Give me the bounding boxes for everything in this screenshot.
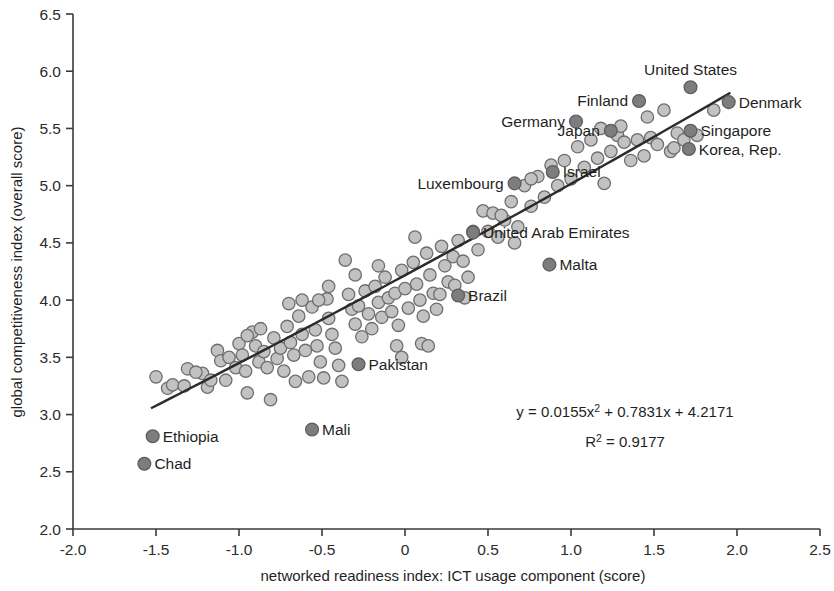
- x-tick-label: 0.5: [477, 541, 499, 558]
- highlighted-data-point: [604, 124, 617, 137]
- x-tick-label: -1.5: [143, 541, 170, 558]
- data-point: [254, 323, 266, 335]
- data-point: [420, 247, 432, 259]
- y-tick-label: 4.5: [39, 234, 61, 251]
- y-tick-label: 3.0: [39, 406, 61, 423]
- y-tick-label: 2.5: [39, 463, 61, 480]
- data-point: [339, 254, 351, 266]
- data-point: [525, 173, 537, 185]
- data-point: [281, 320, 293, 332]
- data-point: [322, 280, 334, 292]
- data-point: [605, 145, 617, 157]
- data-point: [326, 328, 338, 340]
- highlighted-data-point: [633, 95, 646, 108]
- r2-label: R: [585, 433, 596, 450]
- y-tick-label: 6.5: [39, 6, 61, 23]
- data-point: [410, 278, 422, 290]
- data-point: [424, 269, 436, 281]
- data-point: [366, 323, 378, 335]
- data-point: [409, 231, 421, 243]
- data-point: [349, 269, 361, 281]
- data-point: [457, 255, 469, 267]
- data-point: [283, 297, 295, 309]
- data-point: [571, 141, 583, 153]
- scatter-chart: 2.02.53.03.54.04.55.05.56.06.5-2.0-1.5-1…: [0, 0, 834, 591]
- x-tick-label: -2.0: [60, 541, 87, 558]
- data-point: [314, 356, 326, 368]
- data-point: [278, 365, 290, 377]
- data-point: [422, 340, 434, 352]
- data-point: [414, 294, 426, 306]
- data-point: [505, 195, 517, 207]
- highlighted-data-point: [452, 289, 465, 302]
- highlighted-data-point: [684, 81, 697, 94]
- data-point: [402, 302, 414, 314]
- data-point: [391, 340, 403, 352]
- data-point: [336, 375, 348, 387]
- data-point: [342, 288, 354, 300]
- x-tick-label: 0: [401, 541, 410, 558]
- data-point: [362, 308, 374, 320]
- data-point: [190, 366, 202, 378]
- highlighted-data-point: [146, 430, 159, 443]
- y-tick-label: 4.0: [39, 292, 61, 309]
- point-label: Israel: [563, 163, 601, 180]
- point-label: Malta: [559, 256, 597, 273]
- point-label: United States: [644, 61, 737, 78]
- r2-value: = 0.9177: [602, 433, 665, 450]
- data-point: [299, 344, 311, 356]
- data-point: [293, 310, 305, 322]
- x-tick-label: 2.0: [726, 541, 748, 558]
- regression-equation: y = 0.0155x2 + 0.7831x + 4.2171 R2 = 0.9…: [516, 402, 733, 450]
- data-point: [379, 271, 391, 283]
- point-label: Chad: [154, 455, 191, 472]
- data-point: [317, 372, 329, 384]
- svg-text:R2 = 0.9177: R2 = 0.9177: [585, 432, 665, 450]
- y-axis-title: global competitiveness index (overall sc…: [8, 127, 25, 418]
- data-point: [658, 104, 670, 116]
- point-label: United Arab Emirates: [483, 224, 630, 241]
- data-point: [472, 244, 484, 256]
- data-point: [435, 240, 447, 252]
- data-point: [329, 342, 341, 354]
- data-point: [311, 340, 323, 352]
- data-point: [289, 375, 301, 387]
- highlighted-data-point: [546, 166, 559, 179]
- data-point: [166, 379, 178, 391]
- data-point: [296, 294, 308, 306]
- data-point: [462, 271, 474, 283]
- highlighted-data-point: [682, 143, 695, 156]
- data-point: [220, 374, 232, 386]
- data-point: [261, 361, 273, 373]
- data-point: [407, 256, 419, 268]
- data-point: [332, 359, 344, 371]
- data-point: [288, 349, 300, 361]
- equation-main: y = 0.0155x: [516, 403, 594, 420]
- point-label: Ethiopia: [163, 428, 219, 445]
- y-tick-label: 2.0: [39, 521, 61, 538]
- data-point: [625, 154, 637, 166]
- x-tick-label: -0.5: [309, 541, 336, 558]
- point-label: Finland: [577, 92, 628, 109]
- data-point: [638, 150, 650, 162]
- data-point: [430, 303, 442, 315]
- data-point: [392, 319, 404, 331]
- data-point: [386, 305, 398, 317]
- highlighted-data-point: [543, 258, 556, 271]
- highlighted-data-point: [306, 423, 319, 436]
- data-point: [417, 310, 429, 322]
- point-label: Pakistan: [369, 356, 428, 373]
- svg-text:y = 0.0155x2 + 0.7831x + 4.217: y = 0.0155x2 + 0.7831x + 4.2171: [516, 402, 733, 420]
- y-tick-label: 6.0: [39, 63, 61, 80]
- highlighted-data-point: [467, 226, 480, 239]
- point-label: Japan: [558, 122, 600, 139]
- x-tick-label: 1.5: [643, 541, 665, 558]
- highlighted-data-point: [138, 457, 151, 470]
- data-point: [303, 371, 315, 383]
- point-label: Korea, Rep.: [699, 141, 782, 158]
- data-point: [349, 318, 361, 330]
- y-tick-label: 5.5: [39, 120, 61, 137]
- point-label: Singapore: [701, 122, 772, 139]
- highlighted-data-point: [722, 96, 735, 109]
- data-point: [641, 111, 653, 123]
